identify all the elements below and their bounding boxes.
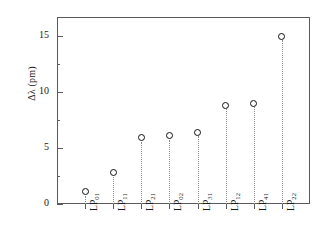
data-point-marker[interactable] <box>194 129 201 136</box>
y-tick-major <box>57 36 63 37</box>
x-tick <box>169 204 170 209</box>
stem-line <box>113 177 114 204</box>
stem-line <box>226 109 227 204</box>
x-tick-label-lp02: LP02 <box>173 193 183 211</box>
x-tick <box>254 204 255 209</box>
stem-line <box>85 196 86 204</box>
y-axis-label: Δλ (pm) <box>26 39 37 129</box>
data-point-marker[interactable] <box>250 100 257 107</box>
x-tick <box>282 204 283 209</box>
data-point-marker[interactable] <box>278 33 285 40</box>
x-tick-label-lp31: LP31 <box>202 193 212 211</box>
stem-line <box>282 40 283 204</box>
data-point-marker[interactable] <box>82 188 89 195</box>
stem-line <box>198 136 199 204</box>
stem-line <box>169 140 170 204</box>
y-tick-major <box>57 92 63 93</box>
x-tick <box>226 204 227 209</box>
x-tick-label-lp12: LP12 <box>230 193 240 211</box>
x-tick-label-lp21: LP21 <box>145 193 155 211</box>
x-tick <box>113 204 114 209</box>
y-tick-minor <box>57 176 60 177</box>
y-tick-label: 10 <box>13 85 49 96</box>
x-tick <box>85 204 86 209</box>
data-point-marker[interactable] <box>110 169 117 176</box>
y-tick-major <box>57 148 63 149</box>
stem-line <box>141 142 142 204</box>
y-tick-minor <box>57 64 60 65</box>
figure-canvas: Δλ (pm) 051015 LP01LP11LP21LP02LP31LP12L… <box>0 0 327 246</box>
x-tick-label-lp22: LP22 <box>286 193 296 211</box>
y-tick-label: 0 <box>13 197 49 208</box>
y-tick-major <box>57 204 63 205</box>
y-tick-label: 5 <box>13 141 49 152</box>
plot-frame <box>57 17 310 204</box>
x-tick <box>198 204 199 209</box>
y-tick-minor <box>57 120 60 121</box>
stem-line <box>254 107 255 204</box>
x-tick-label-lp41: LP41 <box>258 193 268 211</box>
x-tick-label-lp01: LP01 <box>89 193 99 211</box>
x-tick-label-lp11: LP11 <box>117 193 127 211</box>
y-tick-label: 15 <box>13 29 49 40</box>
x-tick <box>141 204 142 209</box>
